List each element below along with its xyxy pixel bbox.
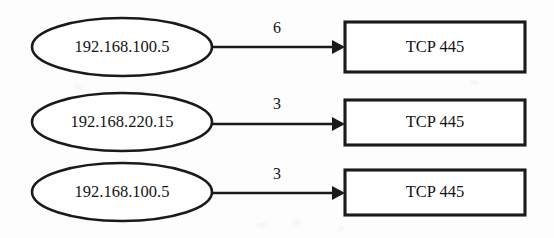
diagram-row: 192.168.220.15 3 TCP 445 [32, 93, 525, 151]
edge-arrowhead-icon [332, 117, 345, 131]
source-node-label: 192.168.220.15 [70, 112, 173, 131]
target-node-label: TCP 445 [406, 182, 465, 201]
network-flow-diagram: 192.168.100.5 6 TCP 445 192.168.220.15 3… [0, 0, 554, 238]
edge-label: 3 [273, 95, 281, 112]
edge-arrowhead-icon [332, 186, 345, 200]
diagram-row: 192.168.100.5 3 TCP 445 [32, 163, 525, 221]
target-node-label: TCP 445 [406, 112, 465, 131]
edge-arrowhead-icon [332, 40, 345, 54]
target-node-label: TCP 445 [406, 37, 465, 56]
edge-label: 3 [273, 165, 281, 182]
source-node-label: 192.168.100.5 [75, 182, 170, 201]
diagram-row: 192.168.100.5 6 TCP 445 [32, 18, 525, 76]
diagram-canvas: 192.168.100.5 6 TCP 445 192.168.220.15 3… [0, 0, 554, 238]
source-node-label: 192.168.100.5 [75, 37, 170, 56]
edge-label: 6 [273, 19, 281, 36]
